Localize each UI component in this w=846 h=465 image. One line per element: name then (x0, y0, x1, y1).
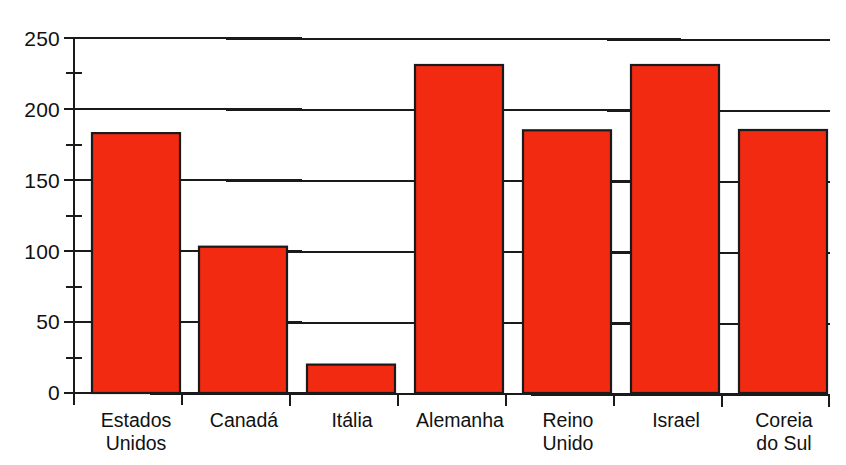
x-category-label-reino-unido: Reino Unido (514, 409, 622, 455)
x-category-label-estados-unidos: Estados Unidos (82, 409, 190, 455)
bar-coreia-do-sul (739, 130, 827, 393)
bar-alemanha (415, 65, 503, 393)
x-category-label-israel: Israel (622, 409, 730, 432)
bar-italia (307, 365, 395, 393)
x-category-label-coreia-do-sul: Coreia do Sul (730, 409, 838, 455)
bar-series (92, 65, 827, 393)
bar-reino-unido (523, 130, 611, 393)
bar-israel (631, 65, 719, 393)
x-category-label-alemanha: Alemanha (406, 409, 514, 432)
x-category-label-italia: Itália (298, 409, 406, 432)
bar-chart-figure: 250 200 150 100 50 0 (0, 0, 846, 465)
plot-area (0, 0, 846, 465)
bar-estados-unidos (92, 133, 180, 393)
gridline-250 (73, 38, 830, 40)
x-category-label-canada: Canadá (190, 409, 298, 432)
bar-canada (199, 247, 287, 393)
